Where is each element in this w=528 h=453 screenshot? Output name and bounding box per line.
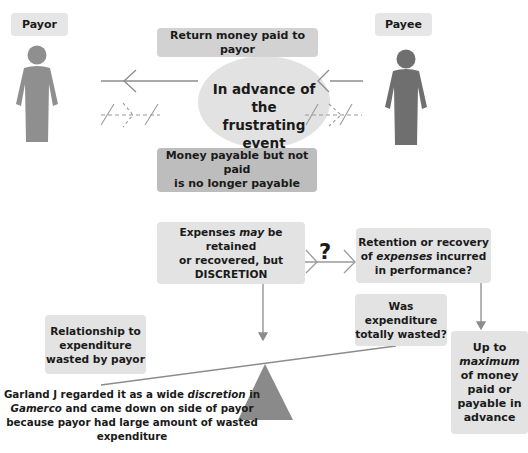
return-arrow-left	[101, 70, 198, 92]
maximum-line-4: paid or	[468, 383, 512, 397]
maximum-line-6: advance	[464, 411, 516, 425]
caption-line-4: expenditure	[0, 429, 264, 443]
payor-label: Payor	[11, 13, 68, 36]
maximum-box: Up to maximum of money paid or payable i…	[451, 331, 528, 434]
relationship-line-1: Relationship to	[50, 324, 141, 338]
maximum-line-1: Up to	[473, 341, 506, 355]
retention-line-1: Retention or recovery	[358, 235, 489, 249]
wasted-line-3: totally wasted?	[355, 327, 447, 341]
event-line-1: In advance of the	[199, 80, 329, 116]
payable-line-2: is no longer payable	[174, 177, 300, 191]
payor-person-icon	[16, 46, 58, 143]
retention-line-3: in performance?	[375, 263, 472, 277]
return-money-box: Return money paid to payor	[157, 28, 318, 57]
payee-person-icon	[385, 50, 427, 146]
maximum-line-2: maximum	[459, 355, 520, 369]
caption-line-1: Garland J regarded it as a wide discreti…	[0, 387, 264, 401]
relationship-box: Relationship to expenditure wasted by pa…	[45, 315, 146, 374]
expenses-line-1: Expenses may be retained	[157, 225, 305, 253]
question-mark: ?	[319, 240, 331, 264]
maximum-line-5: payable in	[457, 397, 521, 411]
wasted-line-2: expenditure	[365, 313, 438, 327]
caption-line-3: because payor had large amount of wasted	[0, 415, 264, 429]
event-ellipse-text: In advance of the frustrating event	[199, 80, 329, 152]
crossed-dashed-arrow-left	[101, 103, 160, 127]
relationship-line-2: expenditure	[59, 338, 132, 352]
expenses-line-2: or recovered, but	[179, 253, 283, 267]
payable-line-1: Money payable but not paid	[157, 149, 317, 177]
wasted-question-box: Was expenditure totally wasted?	[355, 294, 447, 346]
retention-line-2: of expenses incurred	[361, 249, 487, 263]
event-line-2: frustrating event	[199, 116, 329, 152]
retention-recovery-box: Retention or recovery of expenses incurr…	[356, 228, 491, 283]
gamerco-caption: Garland J regarded it as a wide discreti…	[0, 387, 264, 443]
expenses-down-arrow	[259, 284, 267, 340]
expenses-discretion-box: Expenses may be retained or recovered, b…	[157, 222, 305, 284]
retention-down-arrow	[477, 283, 485, 329]
no-longer-payable-box: Money payable but not paid is no longer …	[157, 148, 317, 192]
expenses-line-3: DISCRETION	[195, 267, 268, 281]
maximum-line-3: of money	[461, 369, 519, 383]
wasted-line-1: Was	[389, 299, 414, 313]
payee-label: Payee	[375, 13, 432, 36]
caption-line-2: Gamerco and came down on side of payor	[0, 401, 264, 415]
relationship-line-3: wasted by payor	[46, 352, 145, 366]
